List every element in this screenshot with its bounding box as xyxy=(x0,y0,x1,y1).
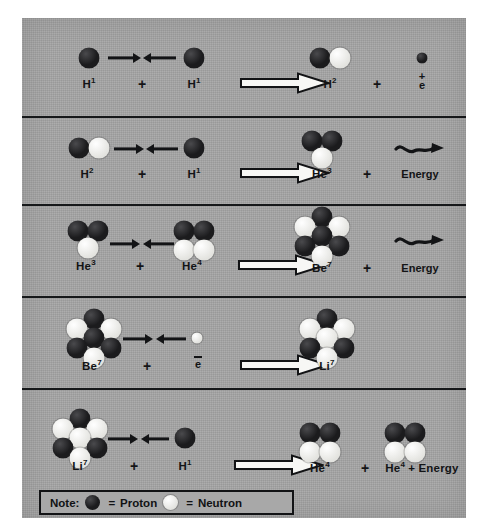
collision-arrow-left xyxy=(156,333,186,344)
positron-symbol: e xyxy=(419,81,425,90)
collision-arrow-right xyxy=(108,52,141,64)
collision-arrow-left xyxy=(141,433,169,444)
collision-arrow-right xyxy=(108,433,138,444)
proton xyxy=(174,221,195,242)
collision-arrow-right xyxy=(114,143,144,154)
reaction-arrow xyxy=(240,72,330,94)
energy-squiggle xyxy=(394,140,450,160)
legend-note-label: Note: xyxy=(50,497,79,509)
collision-arrow-left xyxy=(143,238,174,249)
energy-squiggle xyxy=(394,232,450,252)
legend-proton-label: Proton xyxy=(120,497,157,509)
plus-sign-1: + xyxy=(130,458,138,474)
label-positron: + e xyxy=(419,72,425,90)
label-product-a: He4 xyxy=(310,462,330,474)
reaction-row-4: Be7 + e xyxy=(22,296,466,390)
plus-sign-1: + xyxy=(138,76,146,92)
reaction-row-5: Li7 + H1 xyxy=(22,388,466,518)
proton xyxy=(184,48,205,69)
label-product-b: He4+ Energy xyxy=(385,462,458,474)
neutron xyxy=(174,240,195,261)
proton xyxy=(184,138,205,159)
proton xyxy=(405,423,426,444)
neutron xyxy=(300,442,321,463)
label-product-a: He3 xyxy=(312,168,332,180)
neutron xyxy=(330,48,351,69)
neutron-swatch-icon xyxy=(163,495,178,510)
label-reactant-a: Li7 xyxy=(72,460,87,472)
neutron xyxy=(405,442,426,463)
proton xyxy=(310,48,331,69)
plus-sign-1: + xyxy=(136,258,144,274)
label-reactant-a: Be7 xyxy=(82,360,102,372)
collision-arrow-right xyxy=(123,333,153,344)
proton xyxy=(300,423,321,444)
legend-proton-equals: = xyxy=(108,497,115,509)
fusion-chain-figure: H1 + H1 H2 xyxy=(0,0,483,531)
neutron xyxy=(78,238,99,259)
plus-sign-1: + xyxy=(143,358,151,374)
legend-neutron-label: Neutron xyxy=(198,497,242,509)
reaction-row-1: H1 + H1 H2 xyxy=(22,18,466,118)
label-reactant-a: H2 xyxy=(80,168,93,180)
label-reactant-b: He4 xyxy=(182,260,202,272)
proton xyxy=(175,428,196,449)
proton xyxy=(69,138,90,159)
reaction-row-3: He3 + He4 xyxy=(22,204,466,298)
label-product-a: H2 xyxy=(323,78,336,90)
positron-dot xyxy=(417,53,428,64)
plus-sign-2: + xyxy=(361,460,369,476)
reaction-row-2: H2 + H1 He3 xyxy=(22,116,466,206)
label-electron: e xyxy=(194,356,202,369)
proton xyxy=(194,221,215,242)
electron-dot xyxy=(192,333,203,344)
label-reactant-b: H1 xyxy=(178,460,191,472)
collision-arrow-left xyxy=(146,143,178,154)
proton xyxy=(320,423,341,444)
diagram-panel: H1 + H1 H2 xyxy=(22,18,466,518)
electron-symbol: e xyxy=(194,359,202,369)
neutron xyxy=(89,138,110,159)
plus-sign-2: + xyxy=(373,76,381,92)
proton xyxy=(79,48,100,69)
plus-sign-2: + xyxy=(363,166,371,182)
label-energy: Energy xyxy=(401,262,438,274)
label-reactant-a: H1 xyxy=(82,78,95,90)
collision-arrow-right xyxy=(110,238,140,249)
collision-arrow-left xyxy=(143,52,176,64)
label-product-a: Be7 xyxy=(312,262,332,274)
proton xyxy=(385,423,406,444)
proton-swatch-icon xyxy=(85,495,100,510)
label-product-a: Li7 xyxy=(319,360,334,372)
label-reactant-b: H1 xyxy=(187,78,200,90)
plus-sign-1: + xyxy=(138,166,146,182)
legend-box: Note: = Proton = Neutron xyxy=(39,490,294,515)
plus-sign-2: + xyxy=(363,260,371,276)
legend-neutron-equals: = xyxy=(186,497,193,509)
label-reactant-a: He3 xyxy=(76,260,96,272)
label-energy: Energy xyxy=(401,168,438,180)
label-reactant-b: H1 xyxy=(187,168,200,180)
label-product-b-energy: + Energy xyxy=(408,462,459,474)
